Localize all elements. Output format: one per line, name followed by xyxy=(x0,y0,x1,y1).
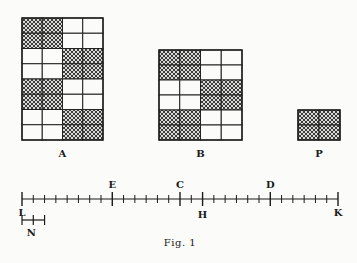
hatched-cell xyxy=(180,65,201,80)
empty-cell xyxy=(201,125,222,140)
point-label-d: D xyxy=(266,179,275,190)
hatched-cell xyxy=(201,95,222,110)
hatched-cell xyxy=(159,65,180,80)
empty-cell xyxy=(42,125,62,140)
hatched-cell xyxy=(83,110,103,125)
point-label-c: C xyxy=(176,179,184,190)
empty-cell xyxy=(42,110,62,125)
point-label-h: H xyxy=(198,209,207,220)
hatched-cell xyxy=(42,94,62,109)
empty-cell xyxy=(83,33,103,48)
empty-cell xyxy=(180,80,201,95)
empty-cell xyxy=(201,110,222,125)
line-end-label: K xyxy=(334,207,343,218)
hatched-cell xyxy=(221,95,242,110)
hatched-cell xyxy=(319,110,340,125)
hatched-cell xyxy=(201,80,222,95)
point-label-e: E xyxy=(108,179,116,190)
hatched-cell xyxy=(180,50,201,65)
grid-label: P xyxy=(315,148,323,159)
empty-cell xyxy=(180,95,201,110)
hatched-cell xyxy=(159,50,180,65)
empty-cell xyxy=(42,64,62,79)
hatched-cell xyxy=(42,18,62,33)
empty-cell xyxy=(221,110,242,125)
hatched-cell xyxy=(180,125,201,140)
figure-caption: Fig. 1 xyxy=(164,237,196,248)
empty-cell xyxy=(83,18,103,33)
number-line: LKECHD xyxy=(18,179,342,220)
hatched-cell xyxy=(42,33,62,48)
hatched-cell xyxy=(83,64,103,79)
grid-a: A xyxy=(22,18,103,159)
empty-cell xyxy=(83,79,103,94)
hatched-cell xyxy=(22,18,42,33)
empty-cell xyxy=(201,50,222,65)
hatched-cell xyxy=(22,79,42,94)
grid-label: B xyxy=(196,148,204,159)
unit-segment-label: N xyxy=(27,227,36,238)
empty-cell xyxy=(221,50,242,65)
hatched-cell xyxy=(221,80,242,95)
hatched-cell xyxy=(83,125,103,140)
hatched-cell xyxy=(83,49,103,64)
hatched-cell xyxy=(298,110,319,125)
hatched-cell xyxy=(63,110,83,125)
hatched-cell xyxy=(159,125,180,140)
grid-label: A xyxy=(58,148,67,159)
empty-cell xyxy=(63,33,83,48)
figure-canvas: ABP LKECHD N Fig. 1 xyxy=(0,0,357,263)
unit-segment: N xyxy=(22,215,45,238)
grid-p: P xyxy=(298,110,340,159)
hatched-cell xyxy=(22,94,42,109)
hatched-cell xyxy=(159,110,180,125)
empty-cell xyxy=(63,79,83,94)
empty-cell xyxy=(221,65,242,80)
empty-cell xyxy=(22,49,42,64)
hatched-cell xyxy=(298,125,319,140)
empty-cell xyxy=(22,64,42,79)
hatched-cell xyxy=(63,49,83,64)
hatched-cell xyxy=(42,79,62,94)
grid-b: B xyxy=(159,50,242,159)
empty-cell xyxy=(22,110,42,125)
hatched-cell xyxy=(180,110,201,125)
empty-cell xyxy=(83,94,103,109)
grids-group: ABP xyxy=(22,18,340,159)
hatched-cell xyxy=(319,125,340,140)
empty-cell xyxy=(22,125,42,140)
empty-cell xyxy=(63,94,83,109)
hatched-cell xyxy=(22,33,42,48)
empty-cell xyxy=(159,95,180,110)
empty-cell xyxy=(159,80,180,95)
empty-cell xyxy=(63,18,83,33)
empty-cell xyxy=(201,65,222,80)
hatched-cell xyxy=(63,64,83,79)
empty-cell xyxy=(42,49,62,64)
hatched-cell xyxy=(63,125,83,140)
empty-cell xyxy=(221,125,242,140)
